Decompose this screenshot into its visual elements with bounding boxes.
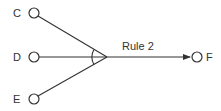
node-c-circle-icon: [29, 8, 39, 18]
edge-e-to-junction: [38, 57, 107, 96]
node-e: E: [13, 93, 39, 105]
rule-label: Rule 2: [122, 40, 154, 52]
node-d-circle-icon: [29, 52, 39, 62]
node-f-label: F: [206, 51, 213, 63]
node-f-circle-icon: [192, 52, 202, 62]
node-e-label: E: [13, 93, 20, 105]
node-f: F: [192, 51, 213, 63]
node-d-label: D: [13, 51, 21, 63]
rule-diagram: C D E F Rule 2: [0, 0, 221, 111]
node-c: C: [13, 7, 39, 19]
node-c-label: C: [13, 7, 21, 19]
node-d: D: [13, 51, 39, 63]
node-e-circle-icon: [29, 94, 39, 104]
edge-c-to-junction: [38, 16, 107, 57]
